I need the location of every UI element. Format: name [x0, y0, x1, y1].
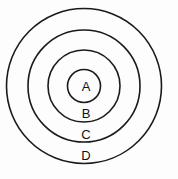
concentric-circle-diagram: A B C D	[0, 0, 178, 179]
ring-label-c: C	[81, 127, 90, 142]
diagram-canvas: A B C D	[0, 0, 178, 179]
ring-label-a: A	[82, 79, 91, 94]
ring-label-b: B	[82, 106, 91, 121]
ring-label-d: D	[81, 148, 90, 163]
